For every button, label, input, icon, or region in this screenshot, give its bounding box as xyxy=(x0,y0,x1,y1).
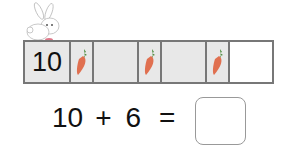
carrot-icon xyxy=(75,47,89,77)
equation-equals: = xyxy=(159,102,175,134)
equation-left: 10 xyxy=(52,102,83,134)
carrot-icon xyxy=(211,47,225,77)
empty-cell xyxy=(162,42,207,82)
carrot-cell xyxy=(207,42,230,82)
carrot-icon xyxy=(143,47,157,77)
bunny-icon xyxy=(22,2,64,44)
carrot-cell xyxy=(139,42,162,82)
answer-box[interactable] xyxy=(195,97,246,145)
ten-frame-strip: 10 xyxy=(23,40,274,84)
blank-cell xyxy=(230,42,272,82)
carrot-cell xyxy=(71,42,94,82)
equation: 10 + 6 = xyxy=(52,102,175,134)
tens-value: 10 xyxy=(32,47,62,78)
tens-cell: 10 xyxy=(25,42,71,82)
equation-right: 6 xyxy=(126,102,142,134)
empty-cell xyxy=(94,42,139,82)
equation-operator: + xyxy=(95,102,111,134)
